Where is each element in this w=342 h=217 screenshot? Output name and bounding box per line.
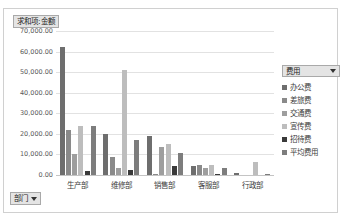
bar[interactable]: [110, 157, 115, 175]
bar[interactable]: [197, 165, 202, 175]
legend-item-label: 差旅费: [290, 94, 311, 107]
legend-swatch-icon: [282, 98, 287, 103]
bar[interactable]: [85, 171, 90, 175]
legend-swatch-icon: [282, 85, 287, 90]
bar[interactable]: [66, 130, 71, 175]
bar[interactable]: [222, 168, 227, 175]
y-axis: 70,000.00 60,000.00 50,000.00 40,000.00 …: [4, 31, 56, 176]
y-tick-label: 60,000.00: [20, 48, 53, 55]
chevron-down-icon: [330, 69, 336, 73]
y-tick-label: 20,000.00: [20, 130, 53, 137]
legend-item[interactable]: 招待费: [282, 133, 340, 146]
department-field-label: 部门: [14, 193, 28, 204]
legend-item-label: 宣传费: [290, 120, 311, 133]
legend-swatch-icon: [282, 137, 287, 142]
bar[interactable]: [147, 136, 152, 175]
legend-swatch-icon: [282, 124, 287, 129]
x-axis-label: 维修部: [100, 179, 144, 193]
bar[interactable]: [172, 166, 177, 175]
bar-series-container: [56, 31, 274, 175]
bar-group: [100, 31, 144, 175]
bar[interactable]: [72, 154, 77, 175]
sheet-background-strip: [0, 0, 342, 8]
bar[interactable]: [191, 166, 196, 175]
bar[interactable]: [234, 173, 239, 175]
x-axis-label: 客服部: [187, 179, 231, 193]
bar[interactable]: [122, 70, 127, 175]
legend-item-label: 交通费: [290, 107, 311, 120]
y-tick-label: 0.00: [39, 172, 53, 179]
legend-item[interactable]: 平均费用: [282, 146, 340, 159]
chevron-down-icon: [31, 197, 37, 201]
pivot-chart-frame[interactable]: 求和项:金额 70,000.00 60,000.00 50,000.00 40,…: [3, 8, 338, 213]
bar[interactable]: [215, 174, 220, 175]
bar[interactable]: [60, 47, 65, 175]
x-axis-label: 销售部: [143, 179, 187, 193]
legend-item-label: 招待费: [290, 133, 311, 146]
bar-group: [56, 31, 100, 175]
legend-field-button[interactable]: 费用: [282, 65, 340, 77]
bar[interactable]: [166, 144, 171, 175]
legend-item-label: 办公费: [290, 81, 311, 94]
y-tick-label: 10,000.00: [20, 151, 53, 158]
bar[interactable]: [159, 147, 164, 175]
bar[interactable]: [253, 162, 258, 175]
legend-item[interactable]: 办公费: [282, 81, 340, 94]
bar-group: [187, 31, 231, 175]
x-axis-labels: 生产部维修部销售部客服部行政部: [56, 179, 274, 193]
legend-item[interactable]: 差旅费: [282, 94, 340, 107]
y-tick-label: 30,000.00: [20, 110, 53, 117]
bar-group: [143, 31, 187, 175]
y-tick-label: 40,000.00: [20, 89, 53, 96]
bar[interactable]: [209, 165, 214, 175]
bar[interactable]: [203, 168, 208, 175]
x-axis-label: 行政部: [230, 179, 274, 193]
value-field-label: 求和项:金额: [17, 16, 55, 27]
plot-area: [56, 31, 274, 176]
bar[interactable]: [153, 174, 158, 175]
legend-swatch-icon: [282, 111, 287, 116]
bar[interactable]: [128, 170, 133, 175]
x-axis-label: 生产部: [56, 179, 100, 193]
legend-item[interactable]: 宣传费: [282, 120, 340, 133]
bar[interactable]: [265, 174, 270, 175]
y-tick-label: 50,000.00: [20, 69, 53, 76]
legend-swatch-icon: [282, 150, 287, 155]
legend-item[interactable]: 交通费: [282, 107, 340, 120]
legend: 费用 办公费差旅费交通费宣传费招待费平均费用: [282, 65, 340, 159]
legend-item-label: 平均费用: [290, 146, 318, 159]
bar[interactable]: [91, 126, 96, 175]
bar[interactable]: [134, 140, 139, 175]
bar[interactable]: [103, 134, 108, 175]
bar[interactable]: [78, 126, 83, 175]
legend-field-label: 费用: [286, 66, 300, 77]
x-axis-line: [56, 175, 274, 176]
bar[interactable]: [116, 168, 121, 175]
y-tick-label: 70,000.00: [20, 28, 53, 35]
bar-group: [230, 31, 274, 175]
bar[interactable]: [178, 153, 183, 175]
department-field-button[interactable]: 部门: [10, 192, 41, 205]
